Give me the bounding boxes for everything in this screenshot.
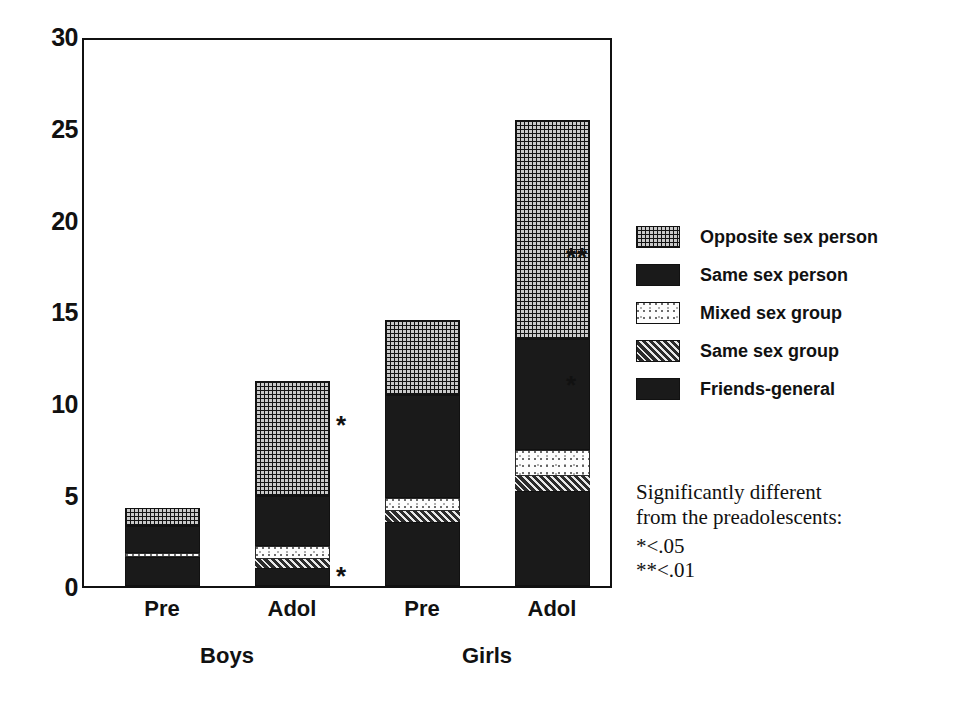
y-axis: 30 25 20 15 10 5 0 [0,0,78,701]
significance-note: Significantly different from the preadol… [636,480,956,583]
x-label-boys-pre: Pre [102,598,222,620]
segment-mixed-sex-group [515,450,590,476]
legend-item-same-sex-person: Same sex person [636,256,966,294]
legend-label: Same sex group [700,342,839,360]
significance-marker-girls-adol-lower: * [566,372,577,398]
segment-same-sex-group [385,511,460,522]
segment-opposite-sex-person [515,120,590,338]
bar-girls-adol [515,120,590,586]
segment-same-sex-group [255,559,330,568]
legend-label: Same sex person [700,266,848,284]
legend-item-same-sex-group: Same sex group [636,332,966,370]
legend-label: Mixed sex group [700,304,842,322]
stacked-bar-chart: 30 25 20 15 10 5 0 [0,0,970,701]
segment-opposite-sex-person [125,508,200,525]
significance-marker-boys-adol-upper: * [336,412,347,438]
plot-area [82,38,612,588]
significance-marker-boys-adol-lower: * [336,563,347,589]
note-line-1: Significantly different [636,480,956,505]
legend-item-opposite-sex-person: Opposite sex person [636,218,966,256]
segment-opposite-sex-person [255,381,330,497]
legend-swatch-solid-black-icon [636,378,680,400]
bar-boys-pre [125,508,200,586]
segment-same-sex-group [515,476,590,491]
note-line-4: **<.01 [636,558,956,583]
legend-item-friends-general: Friends-general [636,370,966,408]
note-line-3: *<.05 [636,534,956,559]
segment-mixed-sex-group [125,553,200,557]
y-tick-label-10: 10 [28,392,78,417]
y-tick-label-25: 25 [28,117,78,142]
segment-mixed-sex-group [255,546,330,559]
legend: Opposite sex person Same sex person Mixe… [636,218,966,408]
group-label-boys: Boys [127,645,327,667]
x-label-boys-adol: Adol [232,598,352,620]
y-tick-label-20: 20 [28,209,78,234]
y-tick-label-5: 5 [28,484,78,509]
legend-item-mixed-sex-group: Mixed sex group [636,294,966,332]
legend-swatch-diagonal-hatch-icon [636,340,680,362]
segment-same-sex-person [255,496,330,546]
segment-friends-general [255,568,330,586]
y-tick-label-15: 15 [28,300,78,325]
legend-label: Friends-general [700,380,835,398]
segment-same-sex-person [515,339,590,451]
legend-swatch-light-dotted-icon [636,302,680,324]
y-tick-label-30: 30 [28,25,78,50]
segment-friends-general [125,557,200,586]
legend-swatch-solid-black-icon [636,264,680,286]
group-label-girls: Girls [387,645,587,667]
segment-same-sex-person [385,395,460,498]
segment-opposite-sex-person [385,320,460,395]
segment-same-sex-person [125,526,200,554]
x-label-girls-pre: Pre [362,598,482,620]
note-line-2: from the preadolescents: [636,505,956,530]
bar-boys-adol [255,381,330,586]
x-label-girls-adol: Adol [492,598,612,620]
legend-label: Opposite sex person [700,228,878,246]
significance-marker-girls-adol-upper: ** [566,244,588,270]
segment-friends-general [515,491,590,586]
segment-friends-general [385,522,460,586]
segment-mixed-sex-group [385,498,460,511]
legend-swatch-cross-grid-icon [636,226,680,248]
y-tick-label-0: 0 [28,575,78,600]
bar-girls-pre [385,320,460,586]
